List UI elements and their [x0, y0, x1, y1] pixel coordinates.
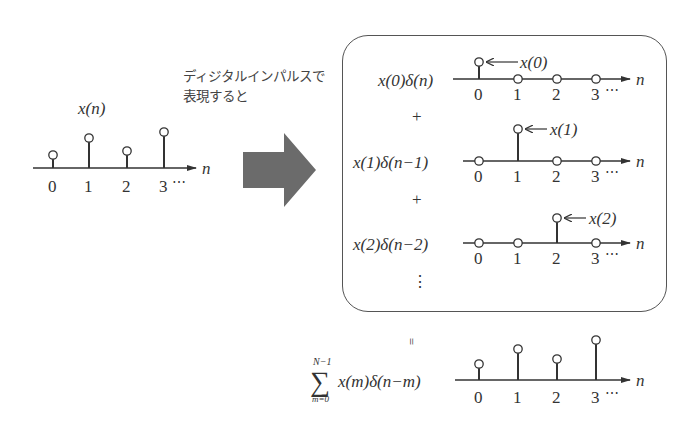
sum-tick-2: 2: [552, 389, 561, 406]
sum-tick-0: 0: [474, 389, 483, 406]
sum-tick-3: 3: [591, 389, 600, 406]
sum-tick-1: 1: [513, 389, 522, 406]
sum-axis-label: n: [636, 372, 645, 389]
sum-stem-plot: [0, 0, 690, 425]
sum-ellipsis: ⋯: [605, 387, 619, 401]
